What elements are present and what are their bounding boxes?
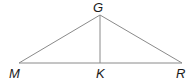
- label-r: R: [176, 67, 185, 80]
- segment-gm: [19, 15, 100, 63]
- label-k: K: [96, 67, 105, 80]
- label-m: M: [9, 67, 20, 80]
- segment-gr: [100, 15, 182, 63]
- triangle-diagram: G M K R: [0, 0, 196, 83]
- label-g: G: [93, 1, 103, 14]
